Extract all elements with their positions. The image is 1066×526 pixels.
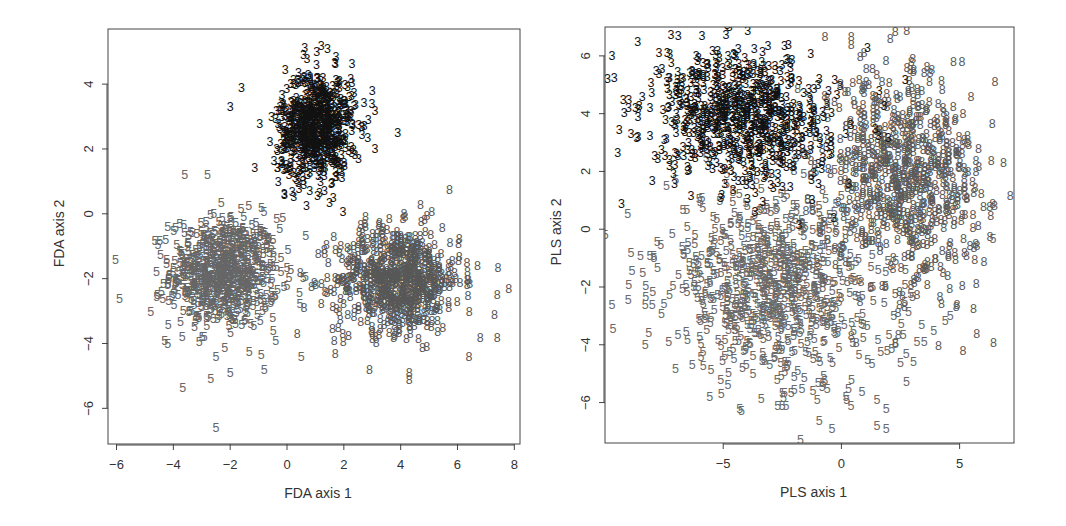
data-point-8: 8 xyxy=(426,251,433,265)
data-point-8: 8 xyxy=(389,293,396,307)
data-point-3: 3 xyxy=(795,218,802,232)
data-point-5: 5 xyxy=(830,325,837,339)
outlier-point-5: 5 xyxy=(918,318,925,332)
data-point-8: 8 xyxy=(311,276,318,290)
data-point-8: 8 xyxy=(939,244,946,258)
data-point-3: 3 xyxy=(744,192,751,206)
outlier-point-3: 3 xyxy=(902,73,909,87)
data-point-5: 5 xyxy=(782,227,789,241)
data-point-3: 3 xyxy=(303,199,310,213)
data-point-3: 3 xyxy=(828,130,835,144)
data-point-8: 8 xyxy=(954,298,961,312)
data-point-3: 3 xyxy=(684,143,691,157)
outlier-point-3: 3 xyxy=(618,197,625,211)
data-point-5: 5 xyxy=(697,195,704,209)
data-point-5: 5 xyxy=(718,387,725,401)
data-point-3: 3 xyxy=(783,160,790,174)
outlier-point-5: 5 xyxy=(646,249,653,263)
data-point-8: 8 xyxy=(854,132,861,146)
data-point-3: 3 xyxy=(735,75,742,89)
outlier-point-3: 3 xyxy=(628,127,635,141)
data-point-3: 3 xyxy=(754,64,761,78)
data-point-8: 8 xyxy=(325,256,332,270)
data-point-5: 5 xyxy=(753,326,760,340)
data-point-8: 8 xyxy=(338,252,345,266)
y-tick-label: 0 xyxy=(578,226,593,233)
scatter-figure: 5555555555555555555555555555555555555555… xyxy=(0,0,1066,526)
outlier-point-8: 8 xyxy=(301,301,308,315)
data-point-8: 8 xyxy=(901,250,908,264)
data-point-3: 3 xyxy=(770,181,777,195)
data-point-8: 8 xyxy=(407,279,414,293)
data-point-3: 3 xyxy=(256,117,263,131)
data-point-3: 3 xyxy=(798,131,805,145)
data-point-8: 8 xyxy=(857,275,864,289)
data-point-8: 8 xyxy=(817,226,824,240)
data-point-3: 3 xyxy=(721,177,728,191)
data-point-5: 5 xyxy=(684,220,691,234)
data-point-5: 5 xyxy=(775,330,782,344)
data-point-5: 5 xyxy=(679,240,686,254)
data-point-3: 3 xyxy=(751,42,758,56)
data-point-5: 5 xyxy=(704,257,711,271)
outlier-point-8: 8 xyxy=(963,191,970,205)
outlier-point-3: 3 xyxy=(227,100,234,114)
data-point-5: 5 xyxy=(706,390,713,404)
data-point-5: 5 xyxy=(758,392,765,406)
outlier-point-8: 8 xyxy=(505,282,512,296)
data-point-3: 3 xyxy=(767,74,774,88)
data-point-5: 5 xyxy=(835,341,842,355)
data-point-8: 8 xyxy=(337,239,344,253)
data-point-3: 3 xyxy=(790,159,797,173)
data-point-5: 5 xyxy=(727,233,734,247)
data-point-5: 5 xyxy=(692,228,699,242)
data-point-5: 5 xyxy=(769,302,776,316)
data-point-8: 8 xyxy=(330,230,337,244)
data-point-5: 5 xyxy=(218,196,225,210)
data-point-5: 5 xyxy=(881,296,888,310)
data-point-3: 3 xyxy=(316,186,323,200)
data-point-3: 3 xyxy=(776,104,783,118)
data-point-5: 5 xyxy=(821,334,828,348)
data-point-3: 3 xyxy=(809,193,816,207)
data-point-8: 8 xyxy=(869,62,876,76)
data-point-3: 3 xyxy=(709,103,716,117)
data-point-3: 3 xyxy=(686,163,693,177)
data-point-5: 5 xyxy=(755,242,762,256)
data-point-8: 8 xyxy=(376,216,383,230)
data-point-5: 5 xyxy=(183,291,190,305)
data-point-5: 5 xyxy=(848,273,855,287)
data-point-8: 8 xyxy=(896,285,903,299)
data-point-8: 8 xyxy=(396,317,403,331)
data-point-5: 5 xyxy=(190,284,197,298)
data-point-5: 5 xyxy=(772,194,779,208)
data-point-3: 3 xyxy=(808,115,815,129)
data-point-8: 8 xyxy=(403,332,410,346)
outlier-point-3: 3 xyxy=(864,41,871,55)
data-point-3: 3 xyxy=(815,177,822,191)
data-point-5: 5 xyxy=(732,260,739,274)
data-point-8: 8 xyxy=(340,335,347,349)
data-point-3: 3 xyxy=(805,82,812,96)
data-point-3: 3 xyxy=(757,97,764,111)
data-point-8: 8 xyxy=(884,220,891,234)
data-point-8: 8 xyxy=(920,222,927,236)
data-point-8: 8 xyxy=(908,55,915,69)
data-point-5: 5 xyxy=(797,317,804,331)
data-point-5: 5 xyxy=(270,246,277,260)
data-point-5: 5 xyxy=(713,267,720,281)
data-point-5: 5 xyxy=(232,295,239,309)
data-point-3: 3 xyxy=(274,161,281,175)
data-point-5: 5 xyxy=(257,222,264,236)
data-point-3: 3 xyxy=(695,128,702,142)
data-point-8: 8 xyxy=(849,76,856,90)
data-point-5: 5 xyxy=(257,314,264,328)
outlier-point-8: 8 xyxy=(491,308,498,322)
outlier-point-5: 5 xyxy=(204,168,211,182)
data-point-3: 3 xyxy=(747,13,754,27)
data-point-8: 8 xyxy=(405,312,412,326)
data-point-8: 8 xyxy=(294,327,301,341)
data-point-3: 3 xyxy=(665,100,672,114)
data-point-8: 8 xyxy=(959,344,966,358)
data-point-5: 5 xyxy=(610,322,617,336)
